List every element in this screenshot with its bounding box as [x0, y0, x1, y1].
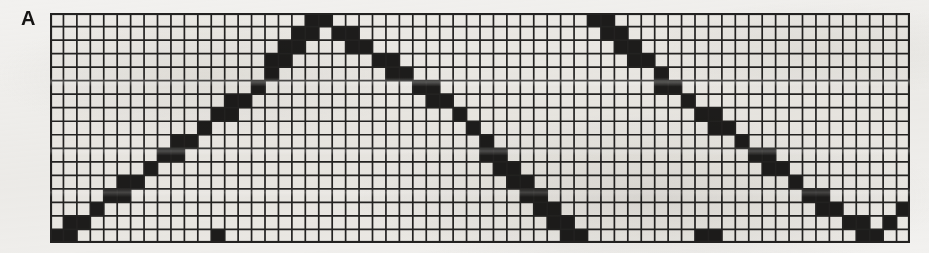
- filled-cell: [507, 175, 521, 189]
- filled-cell: [601, 27, 615, 41]
- filled-cell: [722, 121, 736, 135]
- filled-cell: [225, 108, 239, 122]
- filled-cell: [346, 27, 360, 41]
- filled-cell: [762, 148, 776, 162]
- filled-cell: [413, 81, 427, 95]
- filled-cell: [655, 67, 669, 81]
- matrix-grid-svg: [50, 13, 910, 243]
- filled-cell: [655, 81, 669, 95]
- filled-cell: [440, 94, 454, 108]
- filled-cell: [171, 148, 185, 162]
- filled-cell: [668, 81, 682, 95]
- filled-cell: [104, 189, 118, 203]
- filled-cell: [520, 189, 534, 203]
- panel-label-a: A: [21, 8, 35, 28]
- filled-cell: [789, 175, 803, 189]
- filled-cell: [762, 162, 776, 176]
- filled-cell: [816, 202, 830, 216]
- filled-cell: [547, 216, 561, 230]
- filled-cell: [614, 27, 628, 41]
- filled-cell: [90, 202, 104, 216]
- filled-cell: [856, 216, 870, 230]
- filled-cell: [265, 54, 279, 68]
- filled-cell: [373, 54, 387, 68]
- filled-cell: [211, 108, 225, 122]
- filled-cell: [708, 108, 722, 122]
- filled-cell: [520, 175, 534, 189]
- filled-cell: [198, 121, 212, 135]
- filled-cell: [63, 216, 77, 230]
- filled-cell: [265, 67, 279, 81]
- figure-panel: A: [0, 0, 929, 253]
- filled-cell: [399, 67, 413, 81]
- filled-cell: [534, 202, 548, 216]
- filled-cell: [547, 202, 561, 216]
- filled-cell: [641, 54, 655, 68]
- filled-cell: [467, 121, 481, 135]
- filled-cell: [480, 148, 494, 162]
- filled-cell: [171, 135, 185, 149]
- filled-cell: [480, 135, 494, 149]
- filled-cell: [131, 175, 145, 189]
- filled-cell: [278, 40, 292, 54]
- filled-cell: [561, 216, 575, 230]
- filled-cell: [346, 40, 360, 54]
- filled-cell: [829, 202, 843, 216]
- filled-cell: [386, 67, 400, 81]
- filled-cell: [695, 108, 709, 122]
- filled-cell: [278, 54, 292, 68]
- filled-cell: [225, 94, 239, 108]
- filled-cell: [735, 135, 749, 149]
- filled-cell: [252, 81, 266, 95]
- filled-cell: [332, 27, 346, 41]
- filled-cell: [803, 189, 817, 203]
- filled-cell: [117, 175, 131, 189]
- filled-cell: [144, 162, 158, 176]
- filled-cell: [843, 216, 857, 230]
- filled-cell: [493, 148, 507, 162]
- filled-cell: [749, 148, 763, 162]
- filled-cell: [493, 162, 507, 176]
- filled-cell: [453, 108, 467, 122]
- filled-cell: [426, 81, 440, 95]
- filled-cell: [359, 40, 373, 54]
- filled-cell: [628, 40, 642, 54]
- filled-cell: [708, 121, 722, 135]
- filled-cell: [292, 40, 306, 54]
- filled-cell: [305, 27, 319, 41]
- filled-cell: [883, 216, 897, 230]
- filled-cell: [117, 189, 131, 203]
- filled-cell: [507, 162, 521, 176]
- filled-cell: [776, 162, 790, 176]
- filled-cell: [628, 54, 642, 68]
- filled-cell: [238, 94, 252, 108]
- filled-cell: [77, 216, 91, 230]
- filled-cell: [292, 27, 306, 41]
- filled-cell: [534, 189, 548, 203]
- matrix-grid-plot: [50, 13, 910, 243]
- filled-cell: [184, 135, 198, 149]
- filled-cell: [158, 148, 172, 162]
- filled-cell: [682, 94, 696, 108]
- filled-cell: [614, 40, 628, 54]
- filled-cell: [426, 94, 440, 108]
- filled-cell: [816, 189, 830, 203]
- filled-cell: [386, 54, 400, 68]
